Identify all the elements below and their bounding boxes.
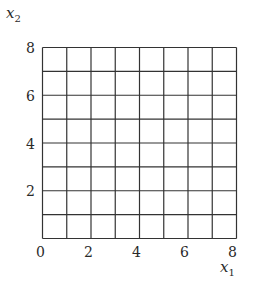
x-tick-2: 2: [84, 245, 93, 259]
x-tick-6: 6: [180, 245, 189, 259]
y-tick-6: 6: [26, 89, 35, 103]
y-tick-8: 8: [26, 41, 35, 55]
x-axis-label: x1: [220, 258, 235, 278]
grid-diagram: x2 x1 8 6 4 2 0 2 4 6 8: [0, 0, 254, 286]
y-axis-label: x2: [6, 4, 21, 24]
x-tick-0: 0: [36, 245, 45, 259]
x-tick-4: 4: [132, 245, 141, 259]
y-tick-2: 2: [26, 184, 35, 198]
y-tick-4: 4: [26, 137, 35, 151]
x-tick-8: 8: [228, 245, 237, 259]
